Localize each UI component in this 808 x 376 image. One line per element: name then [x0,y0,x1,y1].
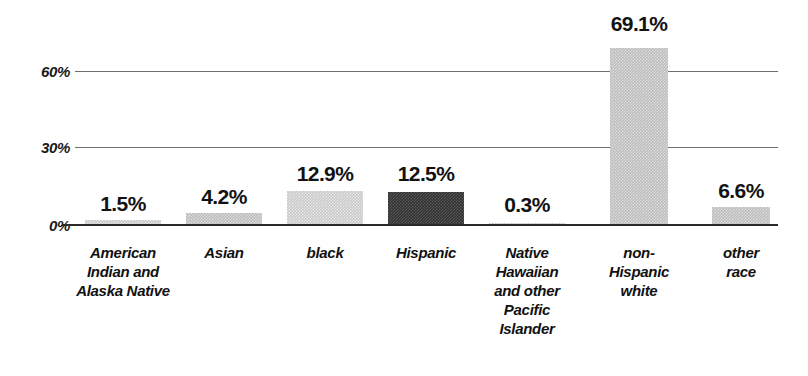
bar-value-american-indian-and-alaska-native: 1.5% [85,193,161,214]
gridline-30 [75,147,778,148]
bar-value-non-hispanic-white: 69.1% [589,13,689,34]
y-tick-label-60: 60% [8,63,70,80]
bar-value-hispanic: 12.5% [388,163,464,184]
category-line: white [573,281,705,300]
category-label-other-race: other race [675,243,807,281]
category-line: Pacific [461,300,593,319]
bar-hispanic [388,192,464,224]
bar-native-hawaiian-and-other-pacific-islander [489,223,565,224]
bar-non-hispanic-white [610,48,668,224]
bar-other-race [712,207,770,224]
plot-area: 60% 30% 0% 1.5% American Indian and Alas… [0,0,808,376]
bar-asian [186,213,262,224]
category-line: race [675,262,807,281]
bar-american-indian-and-alaska-native [85,220,161,224]
gridline-60 [75,71,778,72]
bar-value-asian: 4.2% [186,186,262,207]
bar-value-other-race: 6.6% [691,180,791,201]
bar-chart: 60% 30% 0% 1.5% American Indian and Alas… [0,0,808,376]
bar-value-black: 12.9% [287,163,363,184]
y-tick-label-30: 30% [8,139,70,156]
category-line: other [675,243,807,262]
category-line: Islander [461,319,593,338]
y-tick-label-0: 0% [8,217,70,234]
axis-baseline [62,224,778,226]
bar-value-native-hawaiian-and-other-pacific-islander: 0.3% [489,194,565,215]
bar-black [287,191,363,224]
category-line: Alaska Native [57,281,189,300]
category-line: Indian and [57,262,189,281]
